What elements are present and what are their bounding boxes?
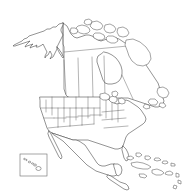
arctic-island xyxy=(70,28,78,34)
caribbean-island xyxy=(162,161,168,164)
hawaii-island xyxy=(34,164,37,166)
hawaii-island xyxy=(32,163,34,164)
north-america-map-figure xyxy=(0,0,185,194)
hawaii-island xyxy=(26,159,27,160)
hawaii-island xyxy=(24,158,26,159)
hawaii-island xyxy=(28,161,31,163)
map-canvas xyxy=(0,0,185,194)
caribbean-island xyxy=(178,180,181,184)
arctic-island xyxy=(84,19,92,25)
hawaii-inset xyxy=(20,154,47,176)
great-lake xyxy=(112,91,118,97)
hawaii-island xyxy=(36,167,41,171)
caribbean-island xyxy=(176,173,179,177)
caribbean-island xyxy=(173,185,177,189)
